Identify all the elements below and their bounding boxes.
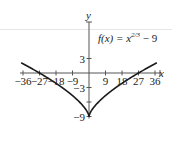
x-tick-label: 27 [133,75,145,87]
y-tick-label: −9 [73,111,85,123]
y-tick-label: 3 [80,53,86,65]
x-axis-label: x [158,67,164,79]
function-graph: −36−27−18−991827363−3−9 x y f(x) = x2/3 … [0,0,172,163]
x-tick-label: −27 [31,75,49,87]
x-tick-label: −36 [14,75,32,87]
function-label: f(x) = x2/3 − 9 [98,31,158,45]
x-tick-label: 9 [103,75,109,87]
y-tick-label: −3 [73,82,85,94]
x-tick-label: 18 [117,75,129,87]
y-axis-label: y [85,9,91,21]
x-tick-label: −18 [47,75,65,87]
